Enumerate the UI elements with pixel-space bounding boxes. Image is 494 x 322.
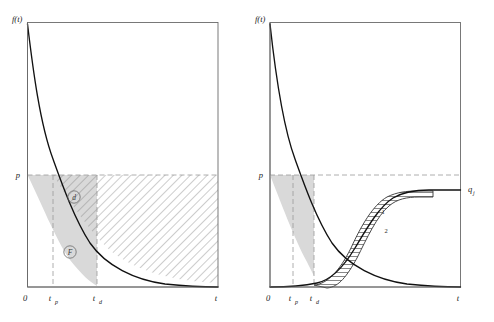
figure-canvas: d F f(t) p 0 t p t d t	[0, 0, 494, 322]
region-f-label: F	[67, 248, 73, 257]
svg-text:p: p	[54, 299, 58, 305]
tick-label-tp: t p	[49, 293, 58, 305]
svg-text:t: t	[49, 293, 52, 303]
left-chart-svg: d F f(t) p 0 t p t d t	[0, 0, 247, 322]
y-axis-label: f(t)	[255, 14, 266, 24]
region-d-label: d	[72, 193, 76, 202]
plot-frame	[270, 23, 461, 288]
svg-text:d: d	[316, 299, 320, 305]
svg-text:t: t	[310, 293, 313, 303]
threshold-label-p: p	[258, 170, 263, 180]
svg-text:p: p	[294, 299, 298, 305]
svg-text:d: d	[99, 299, 103, 305]
decay-curve	[270, 24, 461, 287]
svg-text:j: j	[472, 190, 475, 196]
horizontal-hatched-band	[314, 191, 433, 288]
origin-label: 0	[23, 293, 28, 303]
tick-label-td: t d	[93, 293, 103, 305]
threshold-label-p: p	[15, 170, 20, 180]
gray-shaded-region	[270, 175, 314, 276]
x-axis-label: t	[457, 293, 460, 303]
svg-text:t: t	[289, 293, 292, 303]
band-label-1: 1	[381, 208, 384, 215]
right-chart-svg: 1 2 f(t) p 0 t p t d t q j	[247, 0, 494, 322]
band-label-2: 2	[384, 227, 387, 234]
panel-right: 1 2 f(t) p 0 t p t d t q j	[247, 0, 494, 322]
panel-left: d F f(t) p 0 t p t d t	[0, 0, 247, 322]
svg-text:t: t	[93, 293, 96, 303]
tick-label-tp: t p	[289, 293, 298, 305]
x-axis-label: t	[215, 293, 218, 303]
y-axis-label: f(t)	[12, 14, 23, 24]
origin-label: 0	[266, 293, 271, 303]
tick-label-td: t d	[310, 293, 320, 305]
plateau-label-qj: q j	[468, 184, 475, 196]
